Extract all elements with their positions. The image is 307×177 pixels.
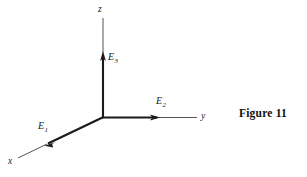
- vector-label-e2: E2: [156, 96, 166, 106]
- vector-label-e2-subscript: 2: [162, 101, 166, 109]
- axis-label-y: y: [201, 112, 205, 122]
- x-axis-thick-line: [48, 117, 104, 144]
- vector-label-e1: E1: [38, 121, 48, 131]
- x-axis-thin-line: [18, 144, 47, 158]
- axis-label-z: z: [98, 5, 102, 15]
- vector-label-e3: E3: [108, 52, 118, 62]
- vector-label-e3-subscript: 3: [114, 57, 118, 65]
- figure-caption: Figure 11: [239, 108, 287, 120]
- axis-label-x: x: [8, 157, 12, 167]
- coordinate-axes-drawing: [0, 0, 307, 177]
- figure-canvas: z y x E3 E2 E1 Figure 11: [0, 0, 307, 177]
- vector-label-e1-subscript: 1: [44, 126, 48, 134]
